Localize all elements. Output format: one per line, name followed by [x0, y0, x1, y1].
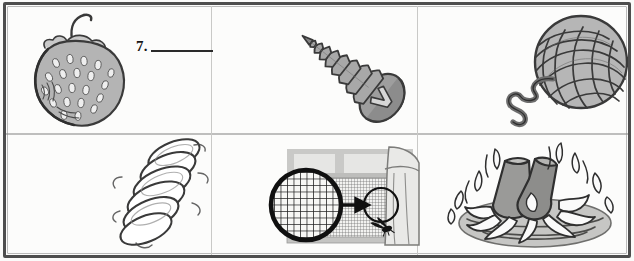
items-grid: 7.	[6, 5, 628, 255]
picture-window-screen	[261, 133, 420, 255]
item-cell-9: 9.	[213, 5, 420, 133]
picture-splashing-boots	[443, 135, 623, 255]
item-cell-8: 8.	[6, 133, 213, 255]
item-cell-10: 10.	[213, 133, 420, 255]
answer-blank-7[interactable]	[151, 50, 214, 52]
picture-string-ball	[495, 9, 628, 133]
worksheet-page: 7.	[0, 0, 634, 261]
item-cell-12: 12.	[421, 133, 628, 255]
item-cell-11: 11.	[421, 5, 628, 133]
item-number-7: 7.	[136, 38, 148, 55]
item-cell-7: 7.	[6, 5, 213, 133]
picture-strawberry	[12, 11, 142, 133]
picture-screw	[265, 9, 420, 131]
prompt-7: 7.	[136, 38, 213, 55]
picture-spring	[106, 133, 213, 251]
